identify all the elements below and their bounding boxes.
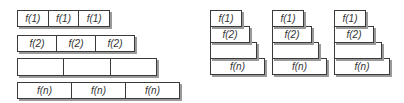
cell: f(2) <box>96 36 134 51</box>
stack-level-1: f(1) <box>210 10 242 27</box>
level-label: f(1) <box>219 13 234 24</box>
level-label: f(n) <box>355 61 370 72</box>
cell: f(2) <box>57 36 96 51</box>
cell-label: f(n) <box>37 85 52 96</box>
level-label: f(2) <box>223 29 238 40</box>
cell: f(1) <box>49 11 80 26</box>
stack-level-n: f(n) <box>210 58 265 75</box>
cell: f(n) <box>72 83 126 98</box>
cell-label: f(2) <box>108 38 123 49</box>
row-f2: f(2) f(2) f(2) <box>17 35 135 52</box>
level-label: f(2) <box>285 29 300 40</box>
cell <box>18 59 64 75</box>
cell-label: f(n) <box>91 85 106 96</box>
stack-level-empty <box>334 42 382 59</box>
cell: f(n) <box>18 83 72 98</box>
stack-level-n: f(n) <box>272 58 327 75</box>
stack-level-n: f(n) <box>334 58 390 75</box>
cell-label: f(n) <box>145 85 160 96</box>
level-label: f(1) <box>281 13 296 24</box>
row-empty <box>17 58 157 76</box>
cell: f(2) <box>18 36 57 51</box>
row-f1: f(1) f(1) f(1) <box>17 10 110 27</box>
cell-label: f(1) <box>87 13 102 24</box>
level-label: f(n) <box>230 61 245 72</box>
level-label: f(1) <box>343 13 358 24</box>
stack-level-2: f(2) <box>272 26 312 43</box>
cell-label: f(2) <box>30 38 45 49</box>
stack-level-2: f(2) <box>210 26 250 43</box>
cell: f(1) <box>18 11 49 26</box>
cell: f(n) <box>126 83 179 98</box>
cell <box>111 59 156 75</box>
stack-level-empty <box>210 42 257 59</box>
cell-label: f(2) <box>69 38 84 49</box>
cell: f(1) <box>79 11 109 26</box>
cell-label: f(1) <box>25 13 40 24</box>
row-fn: f(n) f(n) f(n) <box>17 82 180 99</box>
stack-level-1: f(1) <box>272 10 304 27</box>
level-label: f(n) <box>292 61 307 72</box>
stack-level-1: f(1) <box>334 10 366 27</box>
cell-label: f(1) <box>56 13 71 24</box>
stack-level-empty <box>272 42 319 59</box>
stack-level-2: f(2) <box>334 26 374 43</box>
cell <box>64 59 110 75</box>
level-label: f(2) <box>347 29 362 40</box>
